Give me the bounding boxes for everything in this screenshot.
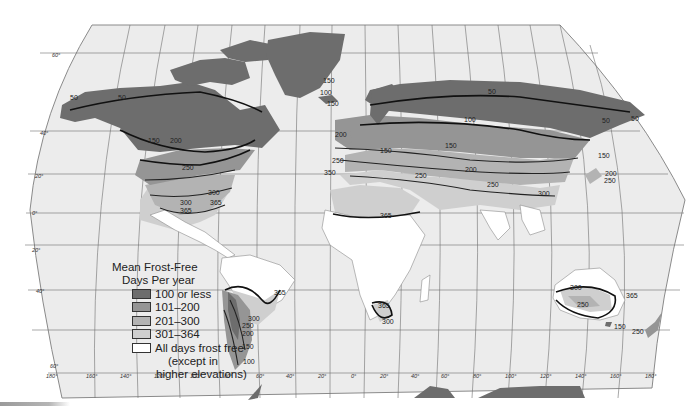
- legend-swatch: [132, 343, 151, 353]
- svg-text:250: 250: [487, 181, 499, 188]
- svg-text:150: 150: [445, 142, 457, 149]
- svg-text:50: 50: [602, 117, 610, 124]
- svg-text:200: 200: [170, 137, 182, 144]
- legend-swatch: [132, 302, 151, 312]
- svg-text:300: 300: [382, 318, 394, 325]
- svg-text:300: 300: [208, 189, 220, 196]
- legend-label: All days frost free: [155, 342, 244, 354]
- svg-text:140°: 140°: [575, 373, 587, 379]
- legend-swatch: [132, 316, 151, 326]
- svg-text:20°: 20°: [31, 247, 41, 253]
- svg-text:300: 300: [570, 284, 582, 291]
- svg-text:300: 300: [538, 190, 550, 197]
- svg-text:150: 150: [323, 77, 335, 84]
- legend: Mean Frost-Free Days Per year 100 or les…: [112, 261, 322, 381]
- svg-text:250: 250: [415, 172, 427, 179]
- svg-text:40°: 40°: [40, 130, 49, 136]
- svg-text:50: 50: [70, 94, 78, 101]
- legend-title-line1: Mean Frost-Free: [112, 261, 198, 273]
- svg-text:365: 365: [378, 302, 390, 309]
- svg-text:0°: 0°: [32, 210, 38, 216]
- svg-text:250: 250: [182, 164, 194, 171]
- svg-text:160°: 160°: [86, 373, 98, 379]
- svg-text:300: 300: [180, 199, 192, 206]
- legend-swatch: [132, 289, 151, 299]
- svg-text:150: 150: [614, 323, 626, 330]
- legend-label: 101–200: [155, 301, 200, 313]
- svg-text:150: 150: [148, 137, 160, 144]
- svg-text:250: 250: [332, 157, 344, 164]
- svg-text:0°: 0°: [351, 373, 357, 379]
- svg-text:150: 150: [598, 152, 610, 159]
- svg-text:80°: 80°: [473, 373, 482, 379]
- svg-text:20°: 20°: [379, 373, 389, 379]
- svg-text:100°: 100°: [505, 373, 517, 379]
- svg-text:200: 200: [335, 131, 347, 138]
- svg-text:50: 50: [488, 88, 496, 95]
- svg-text:120°: 120°: [540, 373, 552, 379]
- svg-text:60°: 60°: [50, 363, 59, 369]
- legend-item-201-300: 201–300: [132, 314, 322, 328]
- svg-text:250: 250: [604, 177, 616, 184]
- svg-text:365: 365: [180, 207, 192, 214]
- legend-swatch: [132, 329, 151, 339]
- svg-text:100: 100: [320, 89, 332, 96]
- svg-text:100: 100: [464, 116, 476, 123]
- legend-title-line2: Days Per year: [112, 274, 322, 287]
- svg-text:365: 365: [380, 212, 392, 219]
- svg-text:365: 365: [210, 199, 222, 206]
- legend-label: 201–300: [155, 315, 200, 327]
- svg-text:40°: 40°: [411, 373, 420, 379]
- svg-text:250: 250: [632, 328, 644, 335]
- legend-label: 100 or less: [155, 288, 211, 300]
- svg-text:60°: 60°: [441, 373, 450, 379]
- svg-text:350: 350: [324, 169, 336, 176]
- svg-text:50: 50: [631, 115, 639, 122]
- frost-free-days-world-map: 50 50 150 200 250 300 300 365 365 150 15…: [0, 0, 699, 411]
- svg-text:180°: 180°: [46, 373, 58, 379]
- decorative-gradient-bar: [0, 402, 70, 406]
- svg-text:160°: 160°: [610, 373, 622, 379]
- legend-note: (except in higher elevations): [156, 355, 322, 381]
- legend-title: Mean Frost-Free Days Per year: [112, 261, 322, 287]
- svg-text:180°: 180°: [645, 373, 657, 379]
- legend-item-100-or-less: 100 or less: [132, 287, 322, 301]
- svg-text:20°: 20°: [34, 173, 44, 179]
- svg-text:250: 250: [577, 301, 589, 308]
- legend-item-all-frost-free: All days frost free: [132, 341, 322, 355]
- svg-text:200: 200: [465, 166, 477, 173]
- svg-text:60°: 60°: [52, 52, 61, 58]
- svg-text:40°: 40°: [36, 288, 45, 294]
- svg-text:150: 150: [327, 100, 339, 107]
- svg-text:150: 150: [380, 147, 392, 154]
- legend-item-101-200: 101–200: [132, 301, 322, 315]
- svg-text:365: 365: [626, 292, 638, 299]
- legend-label: 301–364: [155, 328, 200, 340]
- legend-note-line1: (except in: [156, 355, 322, 368]
- svg-text:200: 200: [605, 170, 617, 177]
- legend-note-line2: higher elevations): [156, 368, 247, 380]
- legend-item-301-364: 301–364: [132, 328, 322, 342]
- svg-text:50: 50: [118, 94, 126, 101]
